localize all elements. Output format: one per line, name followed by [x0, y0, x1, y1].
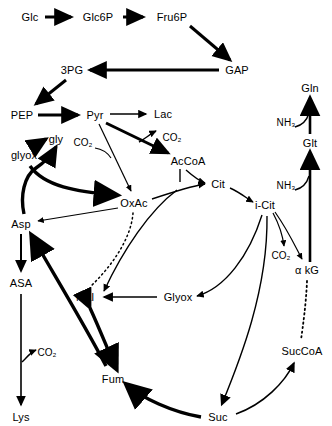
node-oxac: OxAc [120, 198, 147, 209]
node-pep: PEP [11, 110, 33, 121]
node-accoa: AcCoA [171, 156, 206, 167]
node-succoa: SucCoA [282, 346, 323, 357]
node-cit: Cit [211, 179, 225, 190]
node-gap: GAP [225, 65, 249, 76]
node-suc: Suc [208, 412, 227, 423]
node-fru6p: Fru6P [157, 12, 187, 23]
node-co2-pyr: CO₂ [73, 138, 92, 148]
node-glyox-cycle: Glyox [164, 292, 193, 303]
node-icit: i-Cit [255, 200, 275, 211]
pathway-edges [0, 0, 332, 426]
node-3pg: 3PG [61, 65, 83, 76]
node-co2-icit: CO₂ [271, 251, 290, 261]
node-co2-accoa: CO₂ [162, 133, 181, 143]
node-co2-asa: CO₂ [37, 348, 56, 358]
pathway-diagram: Glc Glc6P Fru6P GAP 3PG PEP Pyr Lac gly … [0, 0, 332, 426]
node-gly: gly [49, 134, 63, 145]
node-fum: Fum [102, 374, 124, 385]
node-nh3-akg: NH₃ [277, 181, 296, 191]
node-akg: α kG [295, 265, 319, 276]
node-glt: Glt [303, 138, 317, 149]
node-pyr: Pyr [87, 110, 104, 121]
node-glc: Glc [22, 12, 39, 23]
node-glyox-left: glyox [11, 150, 37, 161]
node-lys: Lys [12, 412, 29, 423]
node-lac: Lac [154, 109, 172, 120]
node-nh3-glt: NH₃ [277, 118, 296, 128]
node-glc6p: Glc6P [83, 12, 113, 23]
node-asa: ASA [10, 278, 32, 289]
node-mal: Mal [76, 292, 94, 303]
node-gln: Gln [301, 83, 318, 94]
node-asp: Asp [11, 219, 30, 230]
